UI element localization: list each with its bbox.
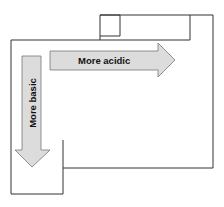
- more-basic-label: More basic: [27, 78, 38, 128]
- upper-left-cell: [100, 15, 120, 36]
- more-acidic-label: More acidic: [78, 55, 130, 66]
